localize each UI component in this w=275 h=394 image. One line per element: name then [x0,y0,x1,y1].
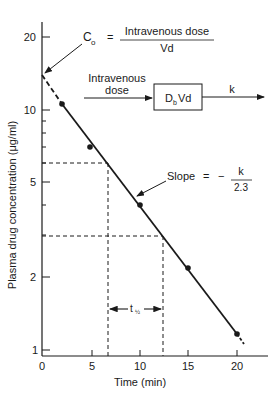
y-tick-20: 20 [24,31,36,43]
svg-text:Slope: Slope [167,170,195,182]
y-axis-label: Plasma drug concentration (μg/ml) [6,121,18,289]
svg-text:−: − [218,170,224,182]
svg-text:2.3: 2.3 [234,182,248,193]
x-tick-0: 0 [39,360,45,372]
svg-text:o: o [91,38,96,47]
slope-annotation: Slope = − k 2.3 [137,165,252,196]
x-tick-5: 5 [89,360,95,372]
x-tick-15: 15 [182,360,194,372]
compartment-model-diagram: Intravenous dose D b Vd k [84,72,264,110]
chart: 20 10 5 2 1 0 5 10 15 20 Time (min) Plas… [0,0,275,394]
fitted-line [42,75,244,344]
y-tick-5: 5 [30,176,36,188]
svg-text:=: = [107,31,113,43]
svg-text:=: = [203,170,209,182]
svg-text:Vd: Vd [178,92,191,104]
data-point [234,331,240,337]
svg-text:Intravenous: Intravenous [88,72,146,84]
y-tick-1: 1 [32,344,38,356]
data-point [59,101,65,107]
data-point [87,144,93,150]
y-tick-2: 2 [30,271,36,283]
x-tick-20: 20 [231,360,243,372]
svg-text:dose: dose [105,84,129,96]
svg-text:D: D [165,92,173,104]
x-axis: 0 5 10 15 20 Time (min) [39,350,268,388]
svg-text:t: t [130,303,133,314]
data-point [185,265,191,271]
svg-text:½: ½ [135,309,140,315]
svg-text:Intravenous dose: Intravenous dose [125,25,209,37]
svg-text:k: k [238,165,244,177]
data-point [137,202,143,208]
x-tick-10: 10 [134,360,146,372]
svg-text:k: k [229,83,235,95]
y-tick-10: 10 [24,104,36,116]
co-annotation: C o = Intravenous dose Vd [45,25,214,73]
svg-text:b: b [173,99,177,106]
half-life-marker: t ½ [110,303,161,315]
svg-text:Vd: Vd [160,42,173,54]
x-axis-label: Time (min) [114,376,166,388]
